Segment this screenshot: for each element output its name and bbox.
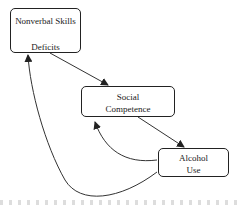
node-label-line1: Alcohol [159, 152, 228, 164]
node-nonverbal-skills-deficits: Nonverbal Skills Deficits [10, 8, 81, 53]
node-alcohol-use: Alcohol Use [158, 148, 229, 177]
node-label-line1: Social [82, 91, 174, 103]
node-label-line2: Competence [82, 103, 174, 115]
node-label-line2: Deficits [11, 42, 80, 52]
cropped-caption-text [0, 200, 238, 205]
edge-social-to-alcohol [138, 117, 184, 147]
edge-alcohol-to-social [95, 122, 157, 161]
node-label-line2: Use [159, 164, 228, 176]
node-label-line1: Nonverbal Skills [11, 16, 80, 26]
node-social-competence: Social Competence [81, 86, 175, 117]
edge-nonverbal-to-social [50, 53, 108, 85]
